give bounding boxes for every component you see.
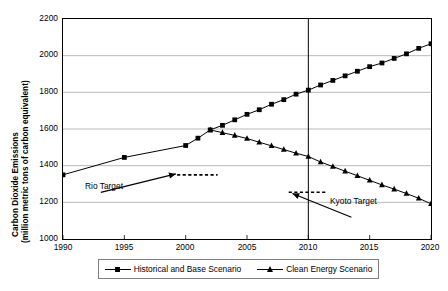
data-point-marker [257,107,262,112]
plot-area [62,18,432,240]
y-tick-1400: 1400 [28,160,58,169]
legend-entry-clean-energy: Clean Energy Scenario [257,264,372,274]
triangle-marker-icon [257,265,283,274]
x-tick-2010: 2010 [288,242,328,252]
series-line [210,130,431,204]
data-point-marker [196,136,201,141]
x-tick-2020: 2020 [410,242,448,252]
data-point-marker [122,155,127,160]
emissions-line-chart: Carbon Dioxide Emissions (million metric… [0,0,448,291]
y-axis-tick-labels: 2200 2000 1800 1600 1400 1200 1000 [28,0,58,250]
data-point-marker [63,172,65,177]
data-point-marker [392,56,397,61]
legend-label-historical-base: Historical and Base Scenario [134,264,242,274]
data-point-marker [428,200,431,206]
data-point-marker [416,46,421,51]
data-point-marker [232,117,237,122]
data-point-marker [294,92,299,97]
rio-target-label: Rio Target [85,181,123,191]
x-tick-1995: 1995 [104,242,144,252]
y-axis-title-line-1: Carbon Dioxide Emissions [11,132,20,237]
data-point-marker [429,41,431,46]
series-line [63,44,431,175]
y-tick-1600: 1600 [28,124,58,133]
chart-legend: Historical and Base Scenario Clean Energ… [98,259,379,279]
data-point-marker [183,143,188,148]
y-tick-1200: 1200 [28,197,58,206]
data-point-marker [380,61,385,66]
x-axis-tick-labels: 1990 1995 2000 2005 2010 2015 2020 [0,242,448,256]
kyoto-target-label: Kyoto Target [330,196,377,206]
data-point-marker [330,78,335,83]
y-tick-1800: 1800 [28,87,58,96]
data-point-marker [343,73,348,78]
data-point-marker [318,83,323,88]
y-tick-2000: 2000 [28,50,58,59]
data-point-marker [367,64,372,69]
annotation-arrows [101,173,352,218]
data-point-marker [355,69,360,74]
series-historical-base [63,41,431,177]
target-reference-lines [177,175,325,192]
data-point-marker [306,88,311,93]
legend-label-clean-energy: Clean Energy Scenario [286,264,372,274]
x-tick-2005: 2005 [227,242,267,252]
x-axis-tick-marks [63,235,431,239]
x-tick-1990: 1990 [43,242,83,252]
data-point-marker [220,123,225,128]
square-marker-icon [105,265,131,274]
data-point-marker [269,102,274,107]
data-point-marker [404,51,409,56]
y-tick-2200: 2200 [28,14,58,23]
plot-svg [63,19,431,239]
x-tick-2015: 2015 [349,242,389,252]
x-tick-2000: 2000 [165,242,205,252]
data-point-marker [281,97,286,102]
data-point-marker [245,112,250,117]
legend-entry-historical-base: Historical and Base Scenario [105,264,242,274]
series-clean-energy [207,127,431,206]
rio-target-arrow-head [169,173,176,179]
